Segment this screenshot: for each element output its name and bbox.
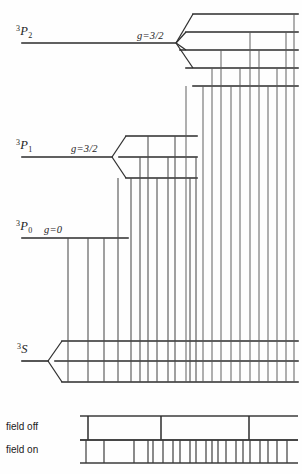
term-3P2-subscript: 2	[28, 31, 32, 40]
fan-3S-m1	[48, 341, 62, 361]
level-group-3P2	[22, 14, 298, 86]
term-3P0-main: P	[20, 219, 28, 233]
term-label-3S: 3S	[17, 343, 28, 358]
fan-3P1-m3	[112, 157, 126, 178]
diagram-canvas	[0, 0, 302, 474]
g-label-3P2: g=3/2	[137, 31, 164, 42]
term-label-3P1: 3P1	[16, 139, 32, 154]
level-group-3P1	[22, 136, 197, 178]
field-off-label: field off	[6, 422, 38, 432]
fan-3S-m3	[48, 361, 62, 382]
field-on-label: field on	[6, 445, 38, 455]
level-group-3S	[22, 341, 298, 382]
term-3P0-subscript: 0	[28, 226, 32, 235]
term-3P2-main: P	[20, 24, 28, 38]
term-3P1-subscript: 1	[28, 145, 32, 154]
fan-3P1-m1	[112, 136, 126, 157]
g-label-3P0: g=0	[44, 225, 62, 236]
term-3P1-main: P	[20, 138, 28, 152]
fan-3P2-m1	[176, 14, 193, 43]
term-3S-main: S	[21, 342, 27, 356]
g-label-3P1: g=3/2	[71, 144, 98, 155]
spectrum-strips	[80, 416, 298, 463]
fan-3P2-m5	[176, 43, 193, 68]
zeeman-diagram-figure: 3P2 g=3/2 3P1 g=3/2 3P0 g=0 3S field off…	[0, 0, 302, 474]
transition-lines	[68, 14, 294, 382]
term-label-3P0: 3P0	[16, 220, 32, 235]
fan-3P2-m4	[176, 43, 186, 50]
term-label-3P2: 3P2	[16, 25, 32, 40]
